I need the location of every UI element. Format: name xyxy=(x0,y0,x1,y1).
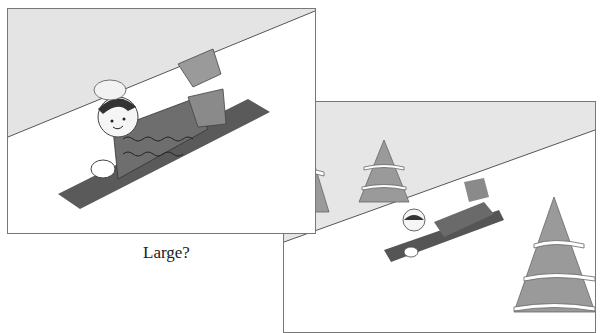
large-caption: Large? xyxy=(143,243,190,263)
large-sledding-scene xyxy=(8,9,315,233)
small-illustration-frame xyxy=(283,101,596,333)
small-sledding-scene xyxy=(284,102,595,332)
large-illustration-frame xyxy=(7,8,316,234)
pine-tree-right xyxy=(514,197,595,312)
